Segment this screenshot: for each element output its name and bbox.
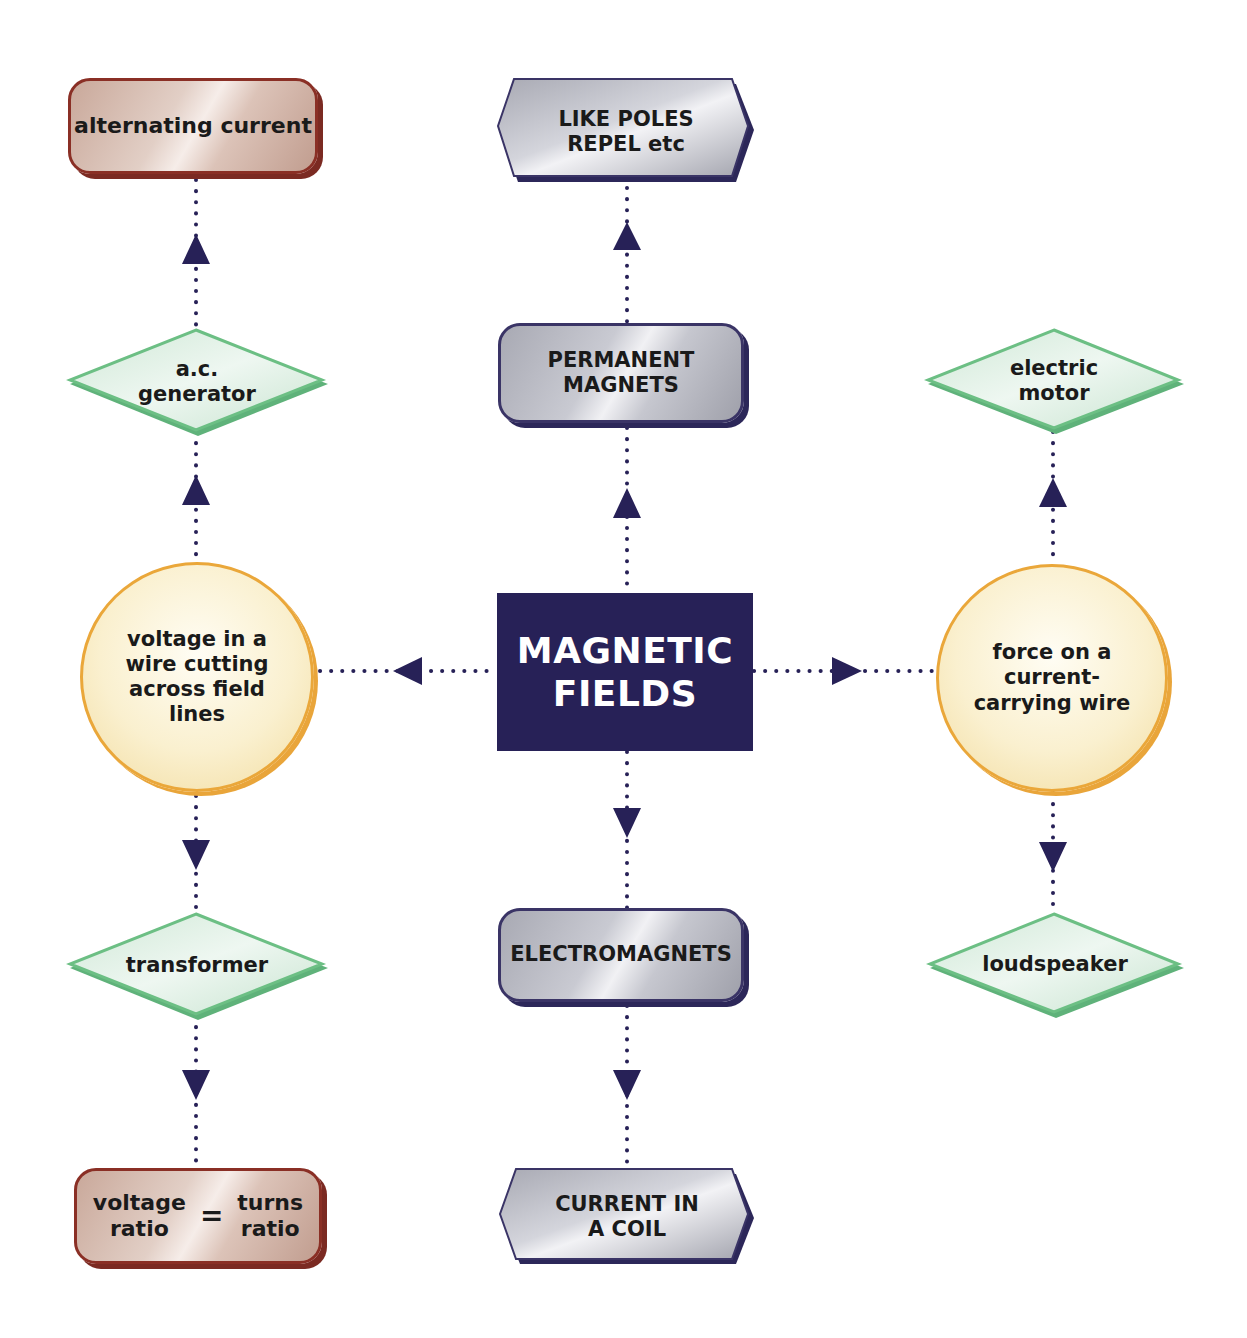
arrow-left-icon (393, 657, 422, 685)
node-label: loudspeaker (982, 952, 1128, 977)
arrow-down-icon (182, 1070, 210, 1100)
arrow-down-icon (1039, 842, 1067, 872)
equals-sign: = (200, 1199, 223, 1233)
node-electric-motor: electric motor (924, 328, 1184, 434)
node-label: voltage in a wire cutting across field l… (125, 627, 268, 728)
arrow-up-icon (613, 488, 641, 518)
node-transformer: transformer (66, 912, 328, 1020)
node-label: PERMANENT MAGNETS (548, 348, 695, 398)
arrow-up-icon (182, 234, 210, 264)
arrow-down-icon (613, 1070, 641, 1100)
node-loudspeaker: loudspeaker (926, 912, 1184, 1018)
node-ac-generator: a.c. generator (66, 328, 328, 436)
arrow-up-icon (1039, 478, 1067, 507)
node-permanent-magnets: PERMANENT MAGNETS (498, 323, 744, 423)
node-label: a.c. generator (138, 357, 256, 407)
node-label: alternating current (74, 113, 312, 139)
node-alternating-current: alternating current (68, 78, 318, 174)
node-label: electric motor (1010, 356, 1098, 406)
node-label: transformer (126, 953, 268, 978)
arrow-up-icon (182, 475, 210, 505)
voltage-ratio-text: voltage ratio (93, 1190, 186, 1243)
turns-ratio-text: turns ratio (237, 1190, 303, 1243)
node-current-in-coil: CURRENT IN A COIL (498, 1166, 756, 1268)
node-electromagnets: ELECTROMAGNETS (498, 908, 744, 1002)
node-label: CURRENT IN A COIL (555, 1192, 699, 1242)
arrow-down-icon (182, 840, 210, 870)
node-magnetic-fields: MAGNETIC FIELDS (497, 593, 753, 751)
concept-map: MAGNETIC FIELDS LIKE POLES REPEL etc PER… (0, 0, 1247, 1338)
arrow-right-icon (832, 657, 862, 685)
node-force-on-wire: force on a current- carrying wire (936, 564, 1168, 792)
node-voltage-ratio: voltage ratio = turns ratio (74, 1168, 322, 1264)
node-label: MAGNETIC FIELDS (517, 629, 733, 715)
node-voltage-in-wire: voltage in a wire cutting across field l… (80, 562, 314, 792)
arrow-up-icon (613, 222, 641, 250)
arrow-down-icon (613, 808, 641, 838)
node-label: force on a current- carrying wire (974, 640, 1131, 716)
node-label: LIKE POLES REPEL etc (558, 107, 693, 157)
node-label: ELECTROMAGNETS (510, 942, 732, 967)
ratio-equation: voltage ratio = turns ratio (93, 1190, 303, 1243)
node-like-poles: LIKE POLES REPEL etc (496, 76, 756, 188)
